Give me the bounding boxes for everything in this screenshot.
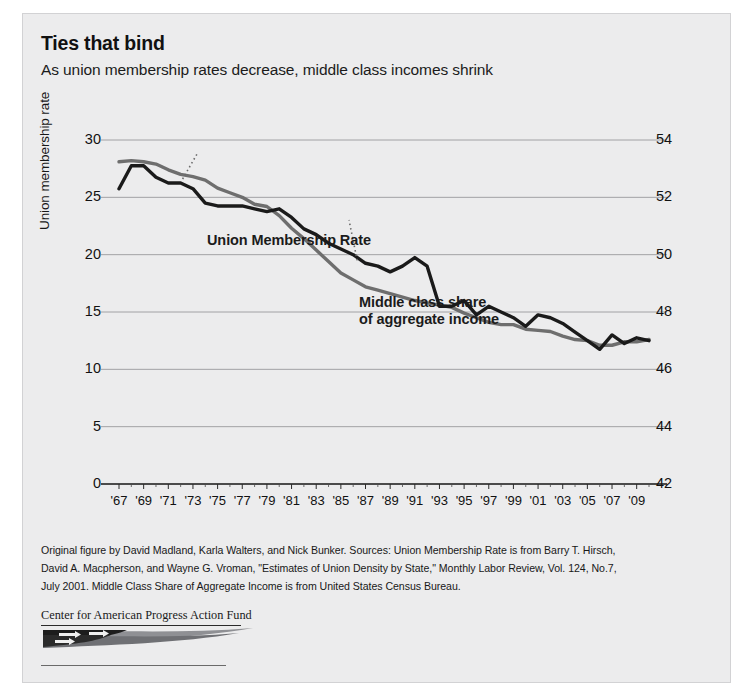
- x-axis-tick-marks: [119, 484, 649, 489]
- y-axis-right-tick-label: 48: [656, 304, 690, 319]
- y-axis-left-tick-label: 15: [67, 304, 101, 319]
- y-axis-left-tick-label: 25: [67, 189, 101, 204]
- y-axis-right-tick-label: 42: [656, 476, 690, 491]
- legend-middle-text-line1: Middle class share: [359, 294, 486, 310]
- y-axis-left-tick-label: 20: [67, 247, 101, 262]
- source-line-2: David A. Macpherson, and Wayne G. Vroman…: [41, 559, 713, 577]
- page-title: Ties that bind: [41, 32, 165, 55]
- legend-middle-class-share: Middle class share of aggregate income: [359, 294, 499, 328]
- logo-baseline-rule: [41, 665, 226, 666]
- logo-wordmark: Center for American Progress Action Fund: [41, 608, 252, 623]
- logo-flag-swoosh-icon: [41, 627, 256, 657]
- y-axis-left-tick-label: 30: [67, 132, 101, 147]
- source-line-3: July 2001. Middle Class Share of Aggrega…: [41, 577, 713, 595]
- source-line-1: Original figure by David Madland, Karla …: [41, 541, 713, 559]
- y-axis-right-tick-label: 52: [656, 189, 690, 204]
- y-axis-right-tick-label: 46: [656, 361, 690, 376]
- legend-union-membership: Union Membership Rate: [207, 232, 371, 249]
- chart-subtitle: As union membership rates decrease, midd…: [41, 61, 493, 79]
- chart-figure: Ties that bind As union membership rates…: [22, 13, 731, 683]
- y-axis-right-tick-label: 50: [656, 247, 690, 262]
- y-axis-left-tick-label: 10: [67, 361, 101, 376]
- y-axis-right-tick-label: 44: [656, 419, 690, 434]
- logo-underline: [41, 625, 241, 626]
- organization-logo: Center for American Progress Action Fund: [41, 608, 271, 660]
- legend-middle-text-line2: of aggregate income: [359, 311, 499, 327]
- y-axis-left-tick-label: 5: [67, 419, 101, 434]
- source-note: Original figure by David Madland, Karla …: [41, 541, 713, 596]
- y-axis-right-tick-label: 54: [656, 132, 690, 147]
- y-axis-left-tick-label: 0: [67, 476, 101, 491]
- legend-union-text: Union Membership Rate: [207, 232, 371, 248]
- x-axis-tick-label: '09: [619, 494, 655, 507]
- plot-area: Union membership rate Middle class share…: [31, 104, 725, 514]
